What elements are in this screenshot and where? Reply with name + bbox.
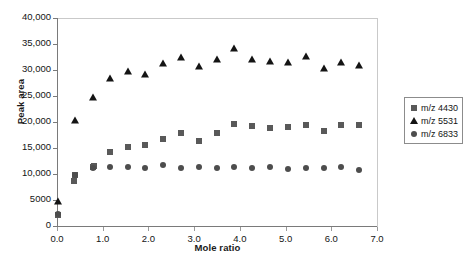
data-point (321, 128, 327, 134)
legend-item: m/z 6833 (408, 127, 458, 140)
plot-frame-top (57, 18, 378, 19)
data-point (196, 164, 202, 170)
data-point (71, 178, 77, 184)
data-point (106, 75, 114, 82)
data-point (284, 58, 292, 65)
y-tick-label: 10,000 (22, 167, 51, 178)
data-point (177, 54, 185, 61)
y-tick-label: 25,000 (22, 89, 51, 100)
data-point (214, 130, 220, 136)
y-tick-label: 40,000 (22, 11, 51, 22)
y-tick-mark (53, 96, 57, 97)
data-point (230, 44, 238, 51)
data-point (142, 142, 148, 148)
data-point (124, 68, 132, 75)
data-point (249, 165, 255, 171)
data-point (89, 93, 97, 100)
y-axis-title: Peak area (15, 64, 26, 140)
y-tick-mark (53, 44, 57, 45)
x-tick-label: 5.0 (266, 233, 306, 244)
data-point (72, 172, 78, 178)
y-tick-mark (53, 174, 57, 175)
data-point (356, 167, 362, 173)
data-point (54, 197, 62, 204)
data-point (321, 165, 327, 171)
data-point (160, 136, 166, 142)
data-point (142, 165, 148, 171)
y-tick-label: 20,000 (22, 115, 51, 126)
data-point (55, 211, 61, 217)
x-tick-mark (286, 227, 287, 231)
x-tick-mark (377, 227, 378, 231)
y-tick-label: 35,000 (22, 37, 51, 48)
y-tick-label: 5000 (30, 193, 51, 204)
chart-figure: Peak area Mole ratio 0500010,00015,00020… (0, 0, 471, 261)
x-tick-mark (240, 227, 241, 231)
data-point (285, 124, 291, 130)
data-point (107, 164, 113, 170)
data-point (178, 130, 184, 136)
y-tick-mark (53, 18, 57, 19)
data-point (337, 58, 345, 65)
data-point (356, 122, 362, 128)
data-point (267, 125, 273, 131)
data-point (231, 164, 237, 170)
y-tick-label: 30,000 (22, 63, 51, 74)
x-tick-mark (148, 227, 149, 231)
data-point (214, 165, 220, 171)
x-tick-mark (331, 227, 332, 231)
data-point (285, 166, 291, 172)
y-axis-line (57, 18, 58, 227)
data-point (178, 165, 184, 171)
y-tick-mark (53, 148, 57, 149)
chart-legend: m/z 4430m/z 5531m/z 6833 (404, 97, 463, 144)
x-tick-label: 6.0 (311, 233, 351, 244)
data-point (107, 149, 113, 155)
data-point (90, 165, 96, 171)
data-point (266, 58, 274, 65)
x-tick-label: 4.0 (220, 233, 260, 244)
triangle-marker-icon (408, 117, 419, 124)
x-tick-label: 2.0 (128, 233, 168, 244)
square-marker-icon (408, 105, 419, 111)
legend-item: m/z 5531 (408, 114, 458, 127)
y-tick-mark (53, 70, 57, 71)
data-point (196, 138, 202, 144)
x-tick-label: 0.0 (37, 233, 77, 244)
data-point (320, 64, 328, 71)
plot-frame-right (377, 18, 378, 227)
y-tick-label: 15,000 (22, 141, 51, 152)
x-tick-mark (194, 227, 195, 231)
data-point (267, 164, 273, 170)
legend-item-label: m/z 6833 (421, 129, 458, 139)
data-point (248, 56, 256, 63)
plot-area: 0500010,00015,00020,00025,00030,00035,00… (57, 18, 378, 227)
data-point (71, 117, 79, 124)
data-point (195, 63, 203, 70)
data-point (160, 162, 166, 168)
data-point (231, 121, 237, 127)
y-tick-mark (53, 122, 57, 123)
data-point (355, 61, 363, 68)
x-tick-mark (57, 227, 58, 231)
data-point (338, 164, 344, 170)
data-point (125, 164, 131, 170)
data-point (249, 123, 255, 129)
data-point (125, 144, 131, 150)
data-point (213, 55, 221, 62)
data-point (303, 122, 309, 128)
data-point (303, 165, 309, 171)
x-tick-label: 1.0 (83, 233, 123, 244)
legend-item-label: m/z 5531 (421, 116, 458, 126)
x-tick-label: 3.0 (174, 233, 214, 244)
legend-item-label: m/z 4430 (421, 103, 458, 113)
data-point (141, 71, 149, 78)
x-axis-line (57, 226, 378, 227)
x-tick-label: 7.0 (357, 233, 397, 244)
legend-item: m/z 4430 (408, 101, 458, 114)
circle-marker-icon (408, 131, 419, 137)
y-tick-label: 0 (46, 219, 51, 230)
x-tick-mark (103, 227, 104, 231)
data-point (302, 53, 310, 60)
data-point (159, 59, 167, 66)
